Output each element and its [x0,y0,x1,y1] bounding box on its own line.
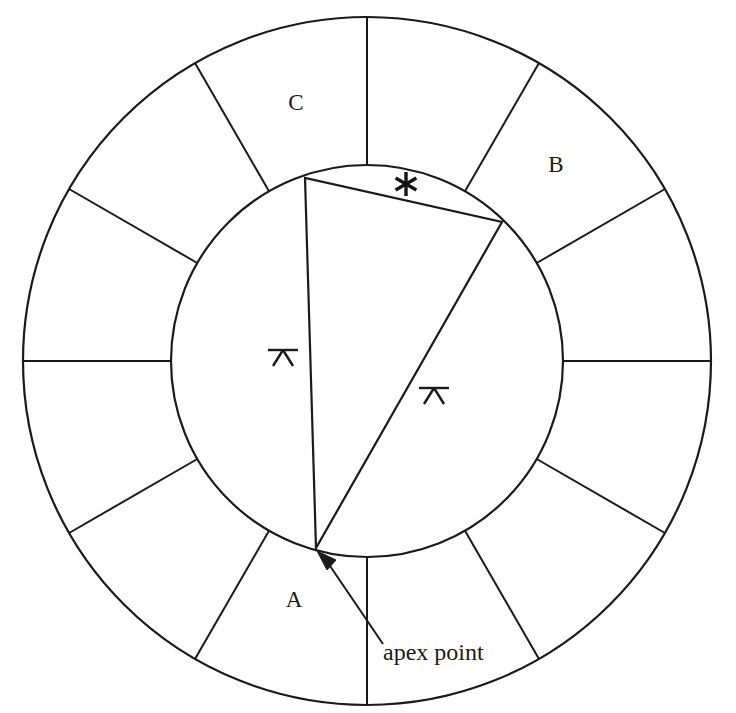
sector-spokes [23,17,711,705]
spoke-240 [195,531,269,659]
right-side-tick-icon [419,388,449,404]
spoke-150 [69,189,197,263]
apex-point-label: apex point [383,639,484,665]
region-label-c: C [288,90,303,115]
region-label-b: B [548,152,563,177]
spoke-210 [69,459,197,533]
diagram-canvas: A B C apex point [0,0,736,713]
spoke-60 [465,63,539,191]
geometry-figure: A B C apex point [0,0,736,713]
inner-circle [171,165,563,557]
asterisk-icon [396,172,417,196]
inscribed-triangle [305,178,502,548]
spoke-30 [537,189,665,263]
apex-callout-arrow [317,551,383,644]
spoke-120 [195,63,269,191]
spoke-330 [537,459,665,533]
left-side-tick-icon [268,350,298,366]
region-label-a: A [286,587,303,612]
